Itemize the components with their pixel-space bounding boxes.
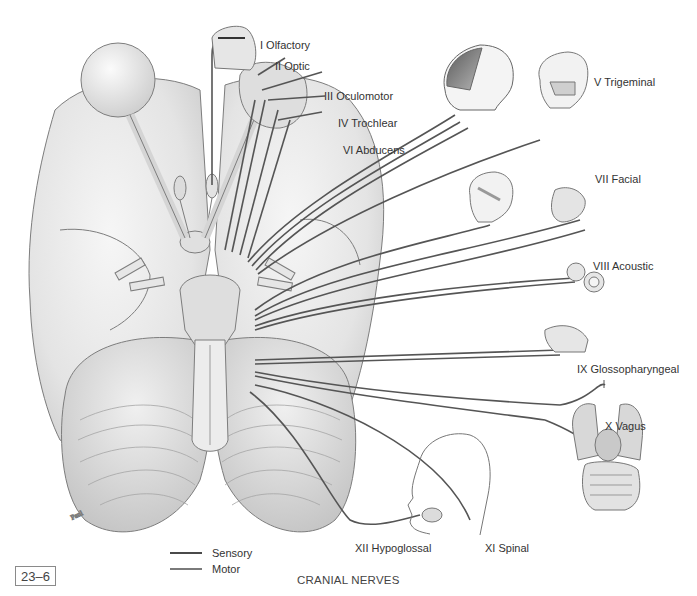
label-trochlear: IV Trochlear [338,118,397,129]
mouth-tongue [551,188,585,222]
face-muscles [470,172,513,222]
label-optic: II Optic [275,61,310,72]
label-glossopharyngeal: IX Glossopharyngeal [577,364,679,375]
legend-label-motor: Motor [212,563,240,575]
figure-caption: CRANIAL NERVES [297,574,400,586]
label-vagus: X Vagus [605,421,646,432]
eyeball [81,43,155,117]
legend-item-motor: Motor [170,563,240,575]
label-hypoglossal: XII Hypoglossal [355,543,431,554]
thoracic-abdominal-organs [573,380,643,510]
legend-item-sensory: Sensory [170,547,252,559]
label-facial: VII Facial [595,174,641,185]
skull [539,52,588,108]
brain-inferior-view: Paul [29,43,384,532]
cranial-nerves-figure: Paul [0,0,697,596]
label-acoustic: VIII Acoustic [593,261,654,272]
pharynx [545,326,588,352]
sensory-line-swatch [170,552,202,554]
nasal-cavity [212,26,256,70]
label-spinal: XI Spinal [485,543,529,554]
label-oculomotor: III Oculomotor [324,91,393,102]
motor-line-swatch [170,568,202,570]
label-olfactory: I Olfactory [260,40,310,51]
label-abducens: VI Abducens [343,145,405,156]
figure-number: 23–6 [15,566,56,586]
neck-head-profile [408,434,490,535]
label-trigeminal: V Trigeminal [594,77,655,88]
legend-label-sensory: Sensory [212,547,252,559]
head-dermatome [444,45,513,110]
